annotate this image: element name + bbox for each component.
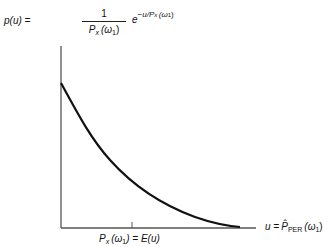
denominator-sub: x — [95, 29, 99, 36]
x-label-p: P̂ — [281, 221, 288, 232]
exponent-arg: (ω — [159, 10, 168, 19]
fraction-bar — [82, 21, 126, 22]
exponent-text: −u/P — [138, 10, 155, 19]
equation-fraction: 1 Px (ω1) — [82, 8, 126, 36]
x-label-close: ) — [319, 221, 322, 232]
tick-p: P — [99, 233, 106, 244]
tick-arg: (ω — [111, 233, 122, 244]
x-axis-label: u = P̂PER (ω1) — [265, 221, 323, 233]
equation-exponential: e−u/Px (ω1) — [132, 14, 174, 25]
tick-rest: ) = E(u) — [126, 233, 160, 244]
x-label-arg: (ω — [304, 221, 315, 232]
exponent-sub: x — [154, 12, 157, 18]
exponent: −u/Px (ω1) — [138, 10, 174, 19]
exponential-curve — [61, 83, 240, 227]
denominator-close: ) — [116, 24, 119, 35]
x-tick-label: Px (ω1) = E(u) — [99, 233, 160, 245]
x-label-sub: PER — [288, 226, 302, 233]
y-axis-label: p(u) = — [4, 15, 30, 26]
exponent-close: ) — [171, 10, 174, 19]
x-label-u: u = — [265, 221, 279, 232]
fraction-denominator: Px (ω1) — [89, 24, 120, 35]
fraction-numerator: 1 — [82, 8, 126, 20]
tick-sub: x — [106, 238, 110, 245]
plot-area — [0, 0, 331, 247]
equation-lhs: p(u) = — [4, 15, 30, 26]
denominator-arg: (ω — [101, 24, 112, 35]
